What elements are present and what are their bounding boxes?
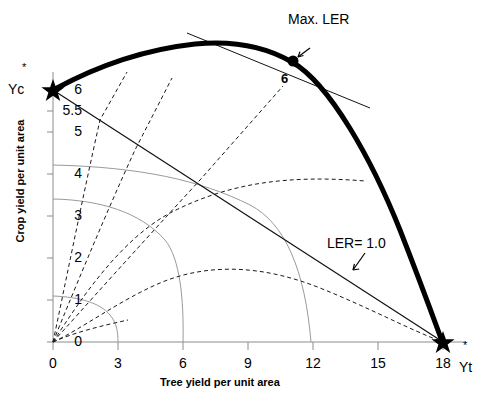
- iso-ler-lower: [53, 269, 443, 342]
- iso-ler-upper: [53, 179, 365, 342]
- production-frontier-curve: [55, 43, 442, 341]
- x-axis-endpoint-label: Yt: [459, 360, 472, 374]
- x-tick-label-18: 18: [423, 356, 463, 370]
- y-tick-label-6: 6: [56, 82, 82, 96]
- max-ler-point-label: 6: [281, 72, 288, 85]
- y-tick-label-5: 5: [56, 124, 82, 138]
- max-ler-dot-marker: [288, 56, 299, 67]
- x-axis-title: Tree yield per unit area: [160, 377, 280, 388]
- x-tick-label-0: 0: [33, 356, 73, 370]
- max-ler-annotation: Max. LER: [288, 12, 349, 26]
- x-tick-label-6: 6: [163, 356, 203, 370]
- y-axis-ticks: [47, 90, 53, 342]
- y-tick-label-3: 3: [56, 208, 82, 222]
- isoquant-arc-outer: [53, 165, 311, 342]
- x-axis-endpoint-star-icon: *: [463, 340, 467, 351]
- chart-figure: 6 5.5 5 4 3 2 1 0 Yc * 0 3 6 9 12 15 18 …: [0, 0, 483, 393]
- y-tick-label-4: 4: [56, 166, 82, 180]
- x-tick-label-3: 3: [98, 356, 138, 370]
- x-axis-ticks: [53, 342, 443, 350]
- y-axis-endpoint-label: Yc: [8, 82, 24, 96]
- isocline-3: [53, 86, 283, 342]
- isoquant-arcs: [53, 165, 311, 342]
- y-tick-label-0: 0: [56, 334, 82, 348]
- y-axis-endpoint-star-icon: *: [22, 62, 26, 73]
- y-tick-label-5-5: 5.5: [49, 103, 82, 117]
- y-axis-title: Crop yield per unit area: [14, 101, 26, 261]
- x-tick-label-12: 12: [293, 356, 333, 370]
- ler-line-arrow: [353, 253, 365, 270]
- ler-one-line: [53, 90, 443, 342]
- ler-line-annotation: LER= 1.0: [327, 236, 386, 250]
- y-tick-label-2: 2: [56, 250, 82, 264]
- x-tick-label-9: 9: [228, 356, 268, 370]
- x-tick-label-15: 15: [358, 356, 398, 370]
- y-tick-label-1: 1: [56, 292, 82, 306]
